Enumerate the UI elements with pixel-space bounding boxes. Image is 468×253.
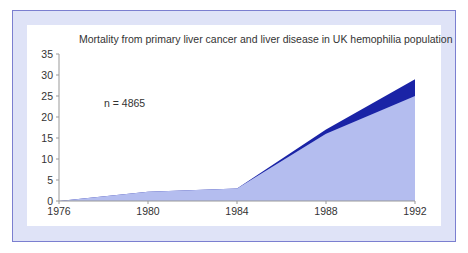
y-tick-label: 5 xyxy=(47,174,53,186)
y-tick-label: 10 xyxy=(41,153,53,165)
sample-size-annotation: n = 4865 xyxy=(104,97,145,109)
y-tick-label: 30 xyxy=(41,69,53,81)
x-tick-label: 1976 xyxy=(47,205,71,217)
x-tick-label: 1988 xyxy=(314,205,338,217)
x-tick-label: 1992 xyxy=(403,205,427,217)
y-tick-label: 15 xyxy=(41,132,53,144)
x-tick-label: 1980 xyxy=(136,205,160,217)
y-tick-label: 35 xyxy=(41,48,53,60)
y-tick-label: 20 xyxy=(41,111,53,123)
chart-plot: 0510152025303519761980198419881992 n = 4… xyxy=(0,0,468,253)
y-tick-label: 25 xyxy=(41,90,53,102)
x-tick-label: 1984 xyxy=(225,205,249,217)
